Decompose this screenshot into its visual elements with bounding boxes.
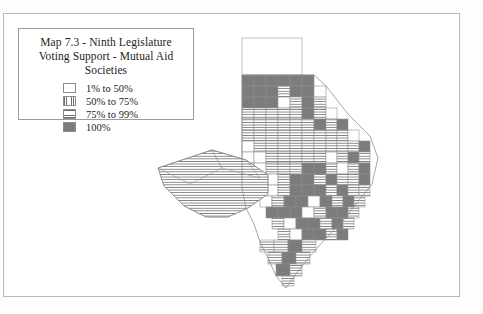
texas-county-map xyxy=(150,18,450,296)
legend-item-75-to-99: 75% to 99% xyxy=(63,108,193,120)
legend-label-1-to-50: 1% to 50% xyxy=(86,83,133,94)
legend-label-100: 100% xyxy=(86,122,111,133)
legend-title-line1: Map 7.3 - Ninth Legislature xyxy=(19,35,193,49)
map-legend: Map 7.3 - Ninth Legislature Voting Suppo… xyxy=(18,28,194,120)
legend-item-100: 100% xyxy=(63,121,193,133)
legend-swatch-50-to-75-icon xyxy=(63,96,76,106)
legend-swatch-75-to-99-icon xyxy=(63,109,76,119)
legend-swatch-100-icon xyxy=(63,122,76,132)
legend-label-75-to-99: 75% to 99% xyxy=(86,109,138,120)
scanned-page: Map 7.3 - Ninth Legislature Voting Suppo… xyxy=(0,0,483,314)
legend-swatch-1-to-50-icon xyxy=(63,83,76,93)
legend-label-50-to-75: 50% to 75% xyxy=(86,96,138,107)
map-svg xyxy=(150,18,450,296)
legend-item-1-to-50: 1% to 50% xyxy=(63,82,193,94)
legend-items: 1% to 50% 50% to 75% 75% to 99% 100% xyxy=(19,82,193,133)
legend-item-50-to-75: 50% to 75% xyxy=(63,95,193,107)
legend-title-line2: Voting Support - Mutual Aid Societies xyxy=(19,49,193,77)
